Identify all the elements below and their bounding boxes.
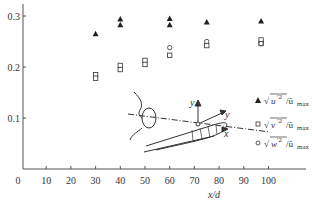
- x-tick-label: 10: [41, 175, 51, 186]
- legend-var-v: v: [271, 120, 275, 130]
- svg-text:′2: ′2: [277, 117, 283, 125]
- svg-text:√: √: [264, 120, 269, 130]
- x-tick-label: 60: [165, 175, 175, 186]
- open-square-icon: [256, 122, 260, 126]
- nozzle-lower-curve: [130, 128, 142, 140]
- legend-sub-u: max: [297, 100, 310, 108]
- triangle-marker-icon: [117, 22, 123, 28]
- circle-marker-icon: [259, 41, 263, 45]
- x-tick-label: 20: [66, 175, 76, 186]
- y-tick-label: 0.3: [8, 11, 21, 22]
- x-tick-label: 80: [214, 175, 224, 186]
- origin-label: 0: [16, 175, 21, 186]
- inset-diagram: [128, 92, 270, 152]
- legend-suffix-u: /ū: [286, 96, 294, 106]
- x-tick-label: 50: [140, 175, 150, 186]
- triangle-marker-icon: [167, 22, 173, 28]
- circle-marker-icon: [168, 45, 172, 49]
- filled-triangle-icon: [255, 97, 261, 103]
- svg-text:′2: ′2: [277, 93, 283, 101]
- circle-marker-icon: [205, 39, 209, 43]
- triangle-marker-icon: [93, 31, 99, 36]
- x-tick-label: 90: [239, 175, 249, 186]
- square-marker-icon: [93, 76, 97, 80]
- svg-text:√: √: [264, 96, 269, 106]
- nozzle-upper-curve: [134, 92, 142, 118]
- triangle-marker-icon: [258, 18, 264, 24]
- legend-sub-w: max: [297, 143, 310, 151]
- open-circle-icon: [256, 141, 260, 145]
- square-marker-icon: [143, 62, 147, 66]
- legend-var-u: u: [271, 96, 276, 106]
- square-marker-icon: [168, 53, 172, 57]
- nozzle-ring: [142, 108, 156, 128]
- inset-y2-label: y: [224, 109, 230, 120]
- y-tick-label: 0.1: [8, 113, 21, 124]
- legend-sub-v: max: [297, 124, 310, 132]
- scatter-chart: 0.10.20.3 102030405060708090100 0 x/d y …: [0, 0, 312, 208]
- inset-y-label: y: [189, 97, 195, 108]
- data-points: [93, 16, 264, 81]
- triangle-marker-icon: [117, 16, 123, 22]
- x-tick-label: 30: [91, 175, 101, 186]
- inset-y-arrow-icon: [195, 100, 201, 106]
- triangle-marker-icon: [204, 19, 210, 25]
- svg-text:√: √: [264, 139, 269, 149]
- inset-origin: [196, 122, 200, 126]
- legend: √ u ′2 /ū max √ v ′2 /ū max √ w ′2 /ū ma…: [255, 93, 310, 151]
- svg-text:′2: ′2: [277, 136, 283, 144]
- legend-item-v: √ v ′2 /ū max: [256, 117, 310, 132]
- legend-item-w: √ w ′2 /ū max: [256, 136, 310, 151]
- legend-suffix-w: /ū: [286, 139, 294, 149]
- x-tick-label: 70: [189, 175, 199, 186]
- triangle-marker-icon: [167, 16, 173, 21]
- inset-y2-axis: [198, 112, 224, 124]
- jet-lower-edge: [144, 136, 214, 152]
- y-tick-label: 0.2: [8, 62, 21, 73]
- inset-x-label: x: [223, 128, 229, 139]
- legend-suffix-v: /ū: [286, 120, 294, 130]
- square-marker-icon: [118, 67, 122, 71]
- jet-profile-upper: [146, 123, 227, 150]
- x-tick-label: 40: [115, 175, 125, 186]
- legend-item-u: √ u ′2 /ū max: [255, 93, 310, 108]
- x-axis-title: x/d: [207, 189, 221, 200]
- x-tick-label: 100: [261, 175, 276, 186]
